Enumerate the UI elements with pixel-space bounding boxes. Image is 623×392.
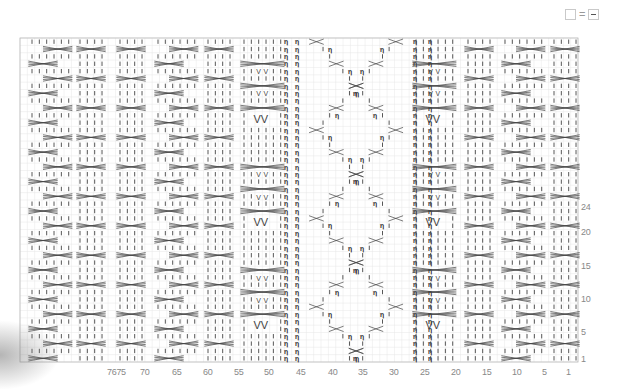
x-tick-label: 25	[420, 367, 429, 377]
svg-text:V: V	[428, 194, 433, 201]
svg-text:𝛈: 𝛈	[360, 245, 364, 253]
svg-text:V: V	[428, 90, 433, 97]
svg-text:V: V	[264, 90, 269, 97]
svg-text:𝛈: 𝛈	[335, 289, 339, 297]
svg-text:𝛈: 𝛈	[328, 46, 332, 54]
x-tick-label: 15	[482, 367, 491, 377]
svg-text:V: V	[436, 171, 441, 178]
svg-text:𝛈: 𝛈	[360, 156, 364, 164]
x-tick-label: 35	[358, 367, 367, 377]
svg-text:V: V	[264, 68, 269, 75]
svg-text:V: V	[436, 194, 441, 201]
y-tick-label: 1	[581, 354, 586, 364]
svg-text:𝛈: 𝛈	[373, 200, 377, 208]
svg-text:V: V	[428, 275, 433, 282]
svg-text:V: V	[256, 68, 261, 75]
y-tick-label: 5	[581, 327, 586, 337]
x-tick-label: 10	[512, 367, 521, 377]
svg-text:𝛈: 𝛈	[380, 134, 384, 142]
svg-text:V: V	[436, 90, 441, 97]
x-tick-label: 60	[203, 367, 212, 377]
svg-text:V: V	[256, 171, 261, 178]
svg-text:𝛈: 𝛈	[328, 311, 332, 319]
x-tick-label: 5	[542, 367, 547, 377]
svg-text:𝛈: 𝛈	[380, 222, 384, 230]
svg-text:𝛈: 𝛈	[348, 245, 352, 253]
svg-text:𝛈: 𝛈	[348, 333, 352, 341]
svg-text:𝛈: 𝛈	[373, 289, 377, 297]
svg-text:V: V	[264, 194, 269, 201]
x-tick-label: 65	[172, 367, 181, 377]
svg-text:V: V	[436, 275, 441, 282]
y-tick-label: 15	[581, 261, 590, 271]
x-tick-label: 45	[296, 367, 305, 377]
svg-text:V: V	[256, 275, 261, 282]
svg-text:VV: VV	[426, 319, 441, 331]
x-tick-label: 50	[264, 367, 273, 377]
svg-text:V: V	[428, 297, 433, 304]
svg-text:V: V	[264, 297, 269, 304]
knitting-chart: VVVVVVVVVVVVVVVVVV𝛈𝛈𝛈𝛈𝛈𝛈𝛈𝛈𝛈𝛈𝛈𝛈𝛈𝛈𝛈𝛈𝛈𝛈𝛈𝛈𝛈𝛈…	[0, 0, 623, 392]
svg-text:V: V	[264, 171, 269, 178]
svg-text:𝛈: 𝛈	[360, 333, 364, 341]
x-tick-label: 30	[389, 367, 398, 377]
svg-text:𝛈: 𝛈	[328, 222, 332, 230]
svg-text:𝛈: 𝛈	[295, 355, 299, 363]
svg-text:𝛈: 𝛈	[335, 200, 339, 208]
x-tick-label: 55	[234, 367, 243, 377]
svg-text:𝛈: 𝛈	[353, 267, 357, 275]
svg-text:V: V	[436, 68, 441, 75]
svg-text:V: V	[264, 275, 269, 282]
svg-text:𝛈: 𝛈	[380, 311, 384, 319]
svg-text:𝛈: 𝛈	[284, 355, 288, 363]
svg-text:V: V	[436, 297, 441, 304]
svg-text:𝛈: 𝛈	[353, 355, 357, 363]
svg-text:V: V	[256, 194, 261, 201]
y-tick-label: 24	[581, 202, 590, 212]
x-tick-label: 20	[451, 367, 460, 377]
svg-text:𝛈: 𝛈	[328, 134, 332, 142]
y-tick-label: 20	[581, 227, 590, 237]
svg-text:𝛈: 𝛈	[380, 46, 384, 54]
svg-text:VV: VV	[254, 113, 269, 125]
x-tick-label: 40	[328, 367, 337, 377]
svg-text:V: V	[256, 90, 261, 97]
svg-text:V: V	[256, 297, 261, 304]
svg-text:𝛈: 𝛈	[335, 112, 339, 120]
svg-text:V: V	[428, 68, 433, 75]
svg-text:𝛈: 𝛈	[353, 90, 357, 98]
svg-text:VV: VV	[254, 216, 269, 228]
svg-text:V: V	[428, 171, 433, 178]
y-tick-label: 10	[581, 294, 590, 304]
svg-text:𝛈: 𝛈	[348, 68, 352, 76]
x-tick-label: 70	[140, 367, 149, 377]
svg-text:VV: VV	[254, 319, 269, 331]
svg-text:𝛈: 𝛈	[348, 156, 352, 164]
page-shadow	[0, 320, 60, 390]
svg-text:VV: VV	[426, 113, 441, 125]
svg-text:VV: VV	[426, 216, 441, 228]
svg-text:𝛈: 𝛈	[353, 178, 357, 186]
svg-text:𝛈: 𝛈	[360, 68, 364, 76]
x-tick-label: 7675	[107, 367, 126, 377]
x-tick-label: 1	[566, 367, 571, 377]
svg-text:𝛈: 𝛈	[373, 112, 377, 120]
